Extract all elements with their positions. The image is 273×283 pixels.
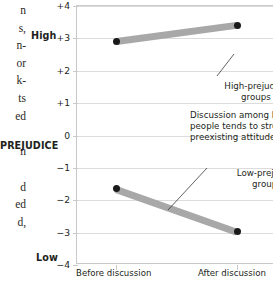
y-axis-tick-label: −2 — [56, 194, 70, 205]
y-axis-tick-label: −3 — [56, 226, 70, 237]
x-axis-tick-label-before: Before discussion — [76, 268, 151, 278]
y-axis-tick-labels: +4+3+2+10−1−2−3−4 — [0, 5, 74, 264]
chart-area: High-prejudice groups Low-prejudice grou… — [76, 5, 273, 264]
y-axis-tick-label: −4 — [56, 259, 70, 270]
y-axis-tick-mark — [73, 265, 78, 266]
y-axis-tick-label: +3 — [56, 32, 70, 43]
y-axis-tick-label: +2 — [56, 64, 70, 75]
x-axis-tick-label-after: After discussion — [198, 268, 266, 278]
y-axis-tick-label: 0 — [64, 129, 70, 140]
y-axis-tick-label: +1 — [56, 97, 70, 108]
leader-line-low-prejudice — [76, 5, 273, 264]
y-axis-tick-label: −1 — [56, 161, 70, 172]
y-axis-tick-label: +4 — [56, 0, 70, 11]
